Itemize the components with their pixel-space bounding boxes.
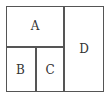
region-c: C xyxy=(36,47,64,92)
region-b: B xyxy=(6,47,35,92)
region-a: A xyxy=(6,6,64,46)
region-d: D xyxy=(64,6,104,92)
